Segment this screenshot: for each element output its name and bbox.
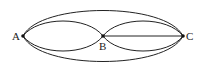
graph-diagram: A B C bbox=[0, 0, 207, 70]
edge-a-b-upper bbox=[23, 21, 103, 36]
edge-b-c-lower bbox=[103, 36, 183, 51]
node-c-dot bbox=[181, 34, 185, 38]
node-a-label: A bbox=[12, 30, 20, 42]
edge-a-c-upper bbox=[23, 11, 183, 37]
node-b-dot bbox=[101, 34, 105, 38]
node-c-label: C bbox=[186, 30, 193, 42]
node-a-dot bbox=[21, 34, 25, 38]
node-b-label: B bbox=[99, 40, 106, 52]
edge-a-b-lower bbox=[23, 36, 103, 51]
edge-b-c-upper bbox=[103, 21, 183, 36]
